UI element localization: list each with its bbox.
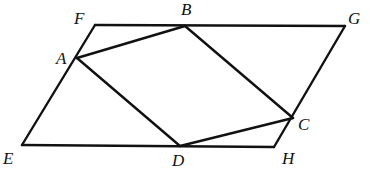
vertex-label-E: E xyxy=(2,149,14,168)
parallelogram-figure: FBGAEDHC xyxy=(0,0,370,170)
geometry-diagram: FBGAEDHC xyxy=(0,0,370,170)
segment-BC xyxy=(185,26,293,118)
vertex-label-C: C xyxy=(298,115,310,134)
figure-segments xyxy=(22,25,345,147)
segment-HE xyxy=(22,145,274,147)
segment-FG xyxy=(95,25,345,26)
vertex-label-B: B xyxy=(181,0,192,19)
vertex-label-F: F xyxy=(73,9,85,28)
segment-EF xyxy=(22,25,95,145)
vertex-label-A: A xyxy=(55,49,67,68)
vertex-label-D: D xyxy=(171,151,185,170)
segment-DA xyxy=(77,58,180,146)
vertex-label-G: G xyxy=(348,9,360,28)
segment-GH xyxy=(274,26,345,147)
segment-AB xyxy=(77,26,185,58)
vertex-label-H: H xyxy=(281,149,296,168)
